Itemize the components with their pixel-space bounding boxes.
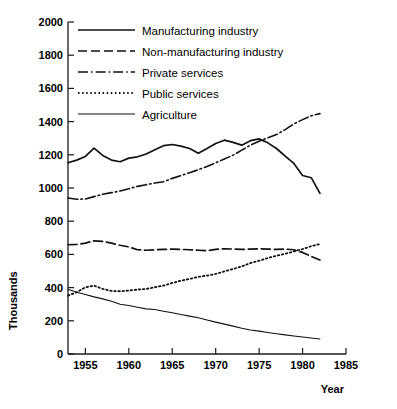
legend-label: Non-manufacturing industry bbox=[142, 46, 284, 58]
x-tick-label: 1975 bbox=[247, 359, 271, 371]
x-tick-label: 1970 bbox=[203, 359, 227, 371]
x-axis-ticks: 1955196019651970197519801985 bbox=[73, 348, 358, 371]
x-tick-label: 1985 bbox=[334, 359, 358, 371]
legend-label: Private services bbox=[142, 67, 223, 79]
y-tick-label: 800 bbox=[45, 215, 63, 227]
y-tick-label: 2000 bbox=[39, 16, 63, 28]
legend-label: Public services bbox=[142, 88, 219, 100]
chart-container: 0200400600800100012001400160018002000 19… bbox=[0, 0, 397, 409]
series-line bbox=[68, 289, 320, 339]
chart-legend: Manufacturing industryNon-manufacturing … bbox=[78, 25, 284, 121]
series-line bbox=[68, 241, 320, 260]
series-line bbox=[68, 139, 320, 193]
y-tick-label: 1600 bbox=[39, 82, 63, 94]
x-tick-label: 1980 bbox=[290, 359, 314, 371]
y-axis-ticks: 0200400600800100012001400160018002000 bbox=[39, 16, 74, 360]
series-line bbox=[68, 244, 320, 295]
data-series-group bbox=[68, 114, 320, 339]
y-tick-label: 200 bbox=[45, 315, 63, 327]
y-tick-label: 0 bbox=[57, 348, 63, 360]
legend-label: Agriculture bbox=[142, 109, 197, 121]
y-tick-label: 1400 bbox=[39, 116, 63, 128]
x-tick-label: 1965 bbox=[160, 359, 184, 371]
y-tick-label: 1200 bbox=[39, 149, 63, 161]
x-tick-label: 1955 bbox=[73, 359, 97, 371]
legend-label: Manufacturing industry bbox=[142, 25, 259, 37]
line-chart-figure: 0200400600800100012001400160018002000 19… bbox=[0, 0, 397, 409]
y-tick-label: 1000 bbox=[39, 182, 63, 194]
y-tick-label: 400 bbox=[45, 282, 63, 294]
x-tick-label: 1960 bbox=[117, 359, 141, 371]
y-axis-title: Thousands bbox=[7, 271, 19, 330]
y-tick-label: 1800 bbox=[39, 49, 63, 61]
x-axis-title: Year bbox=[321, 383, 345, 395]
y-tick-label: 600 bbox=[45, 248, 63, 260]
